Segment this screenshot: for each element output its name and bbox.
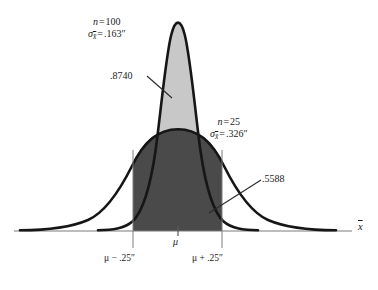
figure-canvas xyxy=(0,0,378,290)
label-n100-sample-size: n=100 xyxy=(88,16,126,28)
label-n100-sigma: σx̄=.163″ xyxy=(88,28,126,41)
label-n25-stats: n=25 σx̄=.326″ xyxy=(210,116,248,141)
label-n100-stats: n=100 σx̄=.163″ xyxy=(88,16,126,41)
axis-label-mu: μ xyxy=(173,236,178,248)
label-n25-sigma: σx̄=.326″ xyxy=(210,128,248,141)
label-area-n100: .8740 xyxy=(110,70,133,82)
sampling-distribution-figure: n=100 σx̄=.163″ n=25 σx̄=.326″ .8740 .55… xyxy=(0,0,378,290)
axis-label-xbar: x xyxy=(358,221,363,234)
axis-label-upper-bound: μ + .25″ xyxy=(192,253,223,265)
label-n25-sample-size: n=25 xyxy=(210,116,248,128)
axis-label-lower-bound: μ − .25″ xyxy=(104,253,135,265)
label-area-n25: .5588 xyxy=(262,173,285,185)
